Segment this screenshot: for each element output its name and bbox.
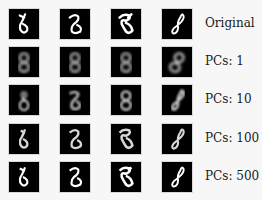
digit-image (161, 123, 193, 155)
row-label: PCs: 1 (205, 53, 244, 69)
digit-image (110, 161, 142, 193)
digit-image (110, 8, 142, 40)
digit-image (8, 8, 40, 40)
row-label: PCs: 500 (205, 168, 259, 184)
digit-image (110, 123, 142, 155)
row-pcs-500: PCs: 500 (0, 161, 262, 194)
digit-image (161, 161, 193, 193)
row-label: PCs: 100 (205, 130, 259, 146)
row-pcs-1: PCs: 1 (0, 46, 262, 79)
digit-image (161, 46, 193, 78)
digit-image (59, 123, 91, 155)
digit-image (59, 84, 91, 116)
row-pcs-10: PCs: 10 (0, 84, 262, 117)
digit-image (8, 46, 40, 78)
digit-image (161, 84, 193, 116)
row-pcs-100: PCs: 100 (0, 123, 262, 156)
digit-image (110, 84, 142, 116)
digit-image (59, 46, 91, 78)
digit-image (8, 123, 40, 155)
row-original: Original (0, 8, 262, 41)
digit-image (110, 46, 142, 78)
digit-image (59, 8, 91, 40)
digit-image (161, 8, 193, 40)
row-label: PCs: 10 (205, 91, 252, 107)
digit-image (8, 84, 40, 116)
digit-image (59, 161, 91, 193)
row-label: Original (205, 15, 255, 31)
digit-image (8, 161, 40, 193)
pca-reconstruction-figure: Original PCs: 1 PCs: 10 (0, 0, 262, 200)
